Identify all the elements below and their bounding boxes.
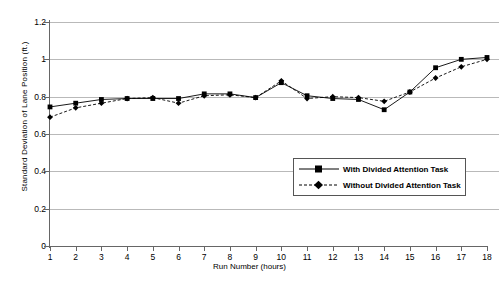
x-tick-label: 11	[296, 252, 318, 262]
x-tick-label: 2	[65, 252, 87, 262]
x-tick-mark	[153, 246, 154, 251]
x-axis-ticks: 123456789101112131415161718	[0, 0, 499, 281]
x-tick-label: 9	[245, 252, 267, 262]
x-tick-label: 14	[373, 252, 395, 262]
x-tick-mark	[461, 246, 462, 251]
x-tick-mark	[384, 246, 385, 251]
x-tick-mark	[333, 246, 334, 251]
x-tick-label: 18	[476, 252, 498, 262]
legend-label: Without Divided Attention Task	[343, 181, 461, 190]
x-tick-label: 8	[219, 252, 241, 262]
x-tick-mark	[127, 246, 128, 251]
x-tick-mark	[358, 246, 359, 251]
x-tick-mark	[487, 246, 488, 251]
x-tick-label: 7	[193, 252, 215, 262]
x-tick-mark	[76, 246, 77, 251]
legend-label: With Divided Attention Task	[343, 165, 448, 174]
x-tick-mark	[307, 246, 308, 251]
x-tick-mark	[230, 246, 231, 251]
dashed-diamond-line-icon	[299, 180, 339, 190]
x-tick-label: 16	[425, 252, 447, 262]
x-tick-label: 13	[347, 252, 369, 262]
x-tick-mark	[204, 246, 205, 251]
legend: With Divided Attention Task Without Divi…	[293, 158, 466, 196]
x-tick-label: 6	[168, 252, 190, 262]
x-tick-mark	[179, 246, 180, 251]
x-tick-label: 4	[116, 252, 138, 262]
x-tick-label: 5	[142, 252, 164, 262]
x-tick-mark	[256, 246, 257, 251]
legend-item-without-divided-attention-task: Without Divided Attention Task	[299, 179, 461, 191]
x-axis-title: Run Number (hours)	[0, 262, 499, 271]
x-tick-mark	[50, 246, 51, 251]
x-tick-label: 10	[270, 252, 292, 262]
x-tick-mark	[436, 246, 437, 251]
solid-square-line-icon	[299, 164, 339, 174]
x-tick-label: 3	[90, 252, 112, 262]
x-tick-mark	[410, 246, 411, 251]
x-tick-label: 1	[39, 252, 61, 262]
chart-container: Standard Deviation of Lane Position (ft.…	[0, 0, 499, 281]
x-tick-label: 12	[322, 252, 344, 262]
x-tick-mark	[281, 246, 282, 251]
legend-item-with-divided-attention-task: With Divided Attention Task	[299, 163, 448, 175]
x-tick-label: 17	[450, 252, 472, 262]
x-tick-mark	[101, 246, 102, 251]
x-tick-label: 15	[399, 252, 421, 262]
